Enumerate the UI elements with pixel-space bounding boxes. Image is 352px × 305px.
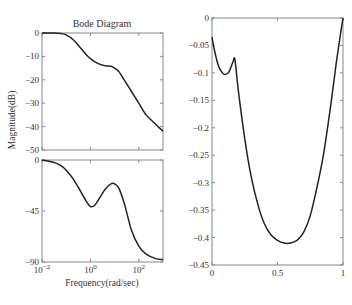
y-tick-label: −50 <box>25 145 40 155</box>
y-tick-label: 0 <box>35 28 40 38</box>
x-tick-label: 10−2 <box>34 263 51 275</box>
x-tick-label: 102 <box>133 263 146 275</box>
data-line <box>42 33 163 131</box>
y-tick-label: −0.4 <box>193 233 210 243</box>
axes-frame <box>42 160 163 262</box>
phase-plot: 0−45−9010−2100102 <box>25 155 163 275</box>
x-tick-label: 100 <box>84 263 97 275</box>
y-tick-label: 0 <box>35 155 40 165</box>
y-tick-label: −45 <box>25 206 40 216</box>
right-plot: 0−0.05−0.1−0.15−0.2−0.25−0.3−0.35−0.4−0.… <box>188 13 345 278</box>
magnitude-plot: 0−10−20−30−40−50 <box>25 28 163 155</box>
figure: Bode Diagram Magnitude(dB) Frequency(rad… <box>0 0 352 305</box>
y-tick-label: −0.45 <box>188 260 209 270</box>
y-tick-label: −20 <box>25 75 40 85</box>
axes-frame <box>212 18 343 265</box>
y-tick-label: −0.2 <box>193 123 209 133</box>
y-tick-label: −0.3 <box>193 178 210 188</box>
y-tick-label: −0.25 <box>188 150 209 160</box>
x-tick-label: 0 <box>210 268 215 278</box>
y-tick-label: −40 <box>25 122 40 132</box>
y-tick-label: 0 <box>205 13 210 23</box>
x-tick-label: 0.5 <box>272 268 284 278</box>
chart-title: Bode Diagram <box>73 18 132 29</box>
data-line <box>212 18 343 243</box>
y-tick-label: −0.05 <box>188 40 209 50</box>
data-line <box>42 160 163 260</box>
y-tick-label: −10 <box>25 51 40 61</box>
x-tick-label: 1 <box>341 268 346 278</box>
y-tick-label: −0.35 <box>188 205 209 215</box>
axes-frame <box>42 33 163 150</box>
y-axis-label-magnitude: Magnitude(dB) <box>7 91 18 150</box>
y-tick-label: −0.1 <box>193 68 209 78</box>
y-tick-label: −0.15 <box>188 95 209 105</box>
x-axis-label-frequency: Frequency(rad/sec) <box>65 278 138 289</box>
y-tick-label: −30 <box>25 98 40 108</box>
